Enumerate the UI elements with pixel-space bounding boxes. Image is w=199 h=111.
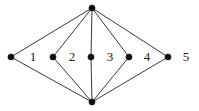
middle-vertex-two (50, 54, 56, 60)
middle-vertex-left (8, 54, 14, 60)
edge-top-left (11, 8, 92, 57)
face-label-5: 5 (183, 49, 190, 64)
edge-top-right (92, 8, 168, 57)
apex-bottom-vertex (89, 99, 95, 105)
middle-vertex-four (126, 54, 132, 60)
edge-bottom-center (91, 57, 92, 102)
graph-canvas: 12345 (0, 0, 199, 111)
middle-vertex-right (165, 54, 171, 60)
face-label-2: 2 (69, 49, 76, 64)
edge-bottom-right (92, 57, 168, 102)
apex-top-vertex (89, 5, 95, 11)
edge-bottom-left (11, 57, 92, 102)
face-label-3: 3 (107, 49, 114, 64)
face-label-1: 1 (30, 49, 37, 64)
face-label-4: 4 (144, 49, 151, 64)
graph-diagram-figure: 12345 (0, 0, 199, 111)
middle-vertex-center (88, 54, 94, 60)
edge-top-center (91, 8, 92, 57)
